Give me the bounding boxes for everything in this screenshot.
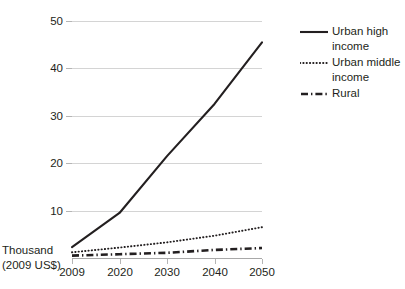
legend-item-urban-high-income[interactable]: Urban high income [300, 24, 405, 54]
legend-item-urban-middle-income[interactable]: Urban middle income [300, 55, 405, 85]
legend-label-urban-middle-income: Urban middle income [332, 55, 404, 85]
legend-label-line-2: income [332, 71, 369, 83]
legend-label-line-2: income [332, 40, 369, 52]
legend-label-line-1: Urban high [332, 25, 388, 37]
legend-item-rural[interactable]: Rural [300, 86, 405, 102]
line-chart: 50 40 30 20 10 2009 2020 2030 2040 2050 … [0, 0, 405, 289]
dotted-line-icon [300, 55, 328, 70]
legend-label-rural: Rural [332, 86, 404, 101]
legend: Urban high income Urban middle income [300, 24, 405, 103]
series-line-rural [72, 248, 262, 256]
legend-label-line-1: Rural [332, 87, 359, 99]
legend-label-line-1: Urban middle [332, 56, 400, 68]
legend-label-urban-high-income: Urban high income [332, 24, 404, 54]
dash-dot-line-icon [300, 86, 328, 101]
series-line-urban-high-income [72, 42, 262, 247]
solid-line-icon [300, 24, 328, 39]
